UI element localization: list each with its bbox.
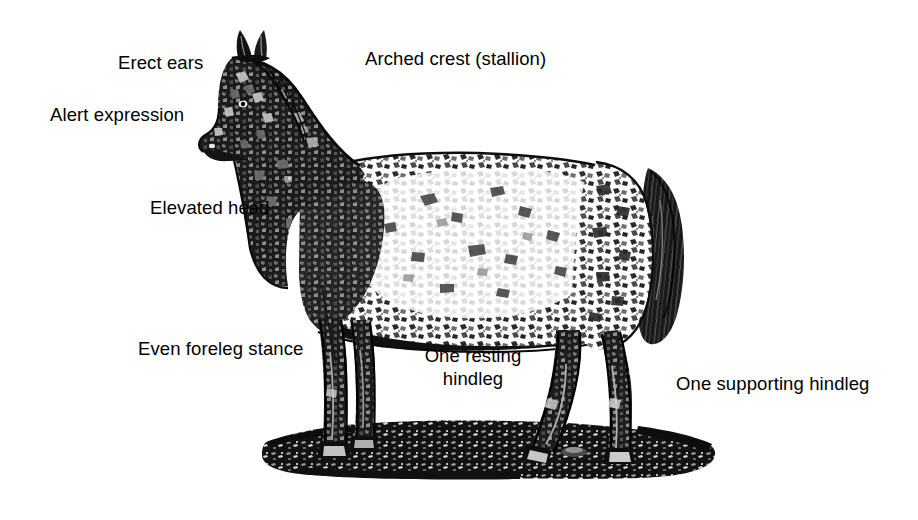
horse-illustration — [0, 0, 918, 520]
figure-canvas: Erect ears Arched crest (stallion) Alert… — [0, 0, 918, 520]
label-elevated-head: Elevated head — [150, 196, 270, 219]
erect-ears — [234, 30, 270, 63]
label-alert-expression: Alert expression — [50, 103, 184, 126]
label-arched-crest: Arched crest (stallion) — [365, 47, 546, 70]
label-one-supporting-hindleg: One supporting hindleg — [676, 372, 870, 395]
label-even-foreleg-stance: Even foreleg stance — [138, 337, 303, 360]
label-one-resting-hindleg: One resting hindleg — [417, 344, 529, 390]
label-erect-ears: Erect ears — [118, 51, 203, 74]
